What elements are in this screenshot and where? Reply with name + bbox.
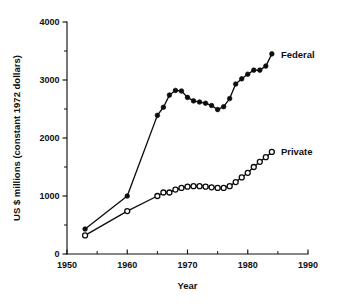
data-point-private (227, 184, 232, 189)
data-point-private (173, 187, 178, 192)
data-point-federal (83, 227, 88, 232)
data-point-private (221, 185, 226, 190)
data-point-federal (245, 72, 250, 77)
data-point-private (251, 165, 256, 170)
chart-figure: 01000200030004000 19501960197019801990 F… (0, 0, 356, 306)
series-lines (85, 54, 272, 236)
data-point-private (203, 184, 208, 189)
data-point-federal (239, 77, 244, 82)
x-axis-major-ticks (67, 250, 308, 255)
y-tick-label: 0 (54, 249, 59, 259)
data-point-federal (258, 68, 263, 73)
data-point-private (167, 190, 172, 195)
data-point-private (83, 233, 88, 238)
x-tick-label: 1950 (57, 260, 77, 270)
series-markers (83, 52, 275, 238)
data-point-federal (197, 100, 202, 105)
y-axis-title: US $ millions (constant 1972 dollars) (11, 55, 22, 221)
data-point-federal (233, 82, 238, 87)
data-point-federal (173, 88, 178, 93)
data-point-federal (191, 99, 196, 104)
y-tick-label: 4000 (39, 17, 59, 27)
data-point-federal (125, 194, 130, 199)
data-point-federal (264, 64, 269, 69)
x-tick-label: 1990 (298, 260, 318, 270)
data-point-federal (203, 101, 208, 106)
data-point-private (245, 170, 250, 175)
data-point-federal (209, 103, 214, 108)
data-point-private (239, 175, 244, 180)
axes-group: 01000200030004000 19501960197019801990 (39, 17, 318, 270)
data-point-private (179, 185, 184, 190)
y-tick-label: 3000 (39, 75, 59, 85)
y-tick-label: 2000 (39, 133, 59, 143)
data-point-private (233, 180, 238, 185)
x-tick-label: 1970 (177, 260, 197, 270)
data-point-federal (270, 52, 275, 57)
x-tick-label: 1960 (117, 260, 137, 270)
x-tick-label: 1980 (238, 260, 258, 270)
x-axis-title: Year (177, 280, 197, 291)
series-annotations: FederalPrivate (281, 49, 315, 157)
data-point-private (185, 184, 190, 189)
data-point-private (209, 185, 214, 190)
data-point-private (125, 209, 130, 214)
y-axis-major-ticks (63, 22, 68, 254)
data-point-private (197, 184, 202, 189)
series-label-federal: Federal (281, 49, 315, 60)
x-axis-tick-labels: 19501960197019801990 (57, 260, 318, 270)
data-point-federal (215, 107, 220, 112)
data-point-private (269, 149, 274, 154)
data-point-private (257, 159, 262, 164)
y-axis-tick-labels: 01000200030004000 (39, 17, 59, 259)
data-point-federal (227, 96, 232, 101)
series-line-private (85, 152, 272, 236)
data-point-private (161, 190, 166, 195)
y-tick-label: 1000 (39, 191, 59, 201)
data-point-federal (185, 95, 190, 100)
series-label-private: Private (281, 146, 313, 157)
series-group (83, 52, 275, 238)
line-chart-plot: 01000200030004000 19501960197019801990 F… (0, 0, 356, 306)
data-point-private (263, 155, 268, 160)
data-point-federal (155, 113, 160, 118)
data-point-federal (221, 104, 226, 109)
data-point-federal (167, 93, 172, 98)
data-point-federal (179, 89, 184, 94)
data-point-private (191, 184, 196, 189)
data-point-federal (161, 105, 166, 110)
data-point-private (215, 185, 220, 190)
data-point-federal (251, 68, 256, 73)
data-point-private (155, 194, 160, 199)
